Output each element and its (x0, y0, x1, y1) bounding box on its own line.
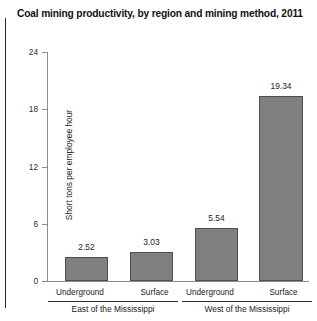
bar-value-west-surface: 19.34 (259, 81, 303, 91)
group-label-west: West of the Mississippi (182, 304, 312, 314)
y-tick-label-24: 24 (0, 47, 38, 57)
y-tick-label-18: 18 (0, 104, 38, 114)
y-tick-label-12: 12 (0, 162, 38, 172)
chart-figure: Coal mining productivity, by region and … (0, 0, 317, 321)
category-label-west-surface: Surface (246, 288, 317, 297)
category-label-west-underground: Underground (170, 288, 250, 297)
bar-value-east-surface: 3.03 (130, 237, 173, 247)
y-tick-label-0: 0 (0, 276, 38, 286)
group-rule-east (48, 301, 178, 302)
y-axis-title: Short tons per employee hour (64, 95, 74, 235)
bar-east-underground[interactable] (65, 257, 108, 281)
x-axis-line (47, 281, 309, 282)
y-tick-0 (42, 281, 47, 282)
plot-area: Short tons per employee hour 2.52 3.03 5… (47, 52, 309, 281)
bar-west-underground[interactable] (195, 228, 238, 281)
group-label-east: East of the Mississippi (48, 304, 178, 314)
bar-value-west-underground: 5.54 (195, 213, 238, 223)
bar-value-east-underground: 2.52 (65, 242, 108, 252)
y-tick-label-6: 6 (0, 219, 38, 229)
chart-title: Coal mining productivity, by region and … (17, 7, 307, 20)
group-rule-west (182, 301, 312, 302)
bar-west-surface[interactable] (259, 96, 303, 281)
category-label-east-underground: Underground (40, 288, 120, 297)
bar-east-surface[interactable] (130, 252, 173, 281)
